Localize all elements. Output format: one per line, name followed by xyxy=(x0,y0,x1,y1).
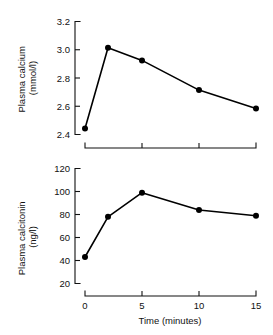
x-tick-label: 15 xyxy=(251,300,262,311)
data-point xyxy=(105,214,111,220)
y-tick-labels-calcium: 3.2 3.0 2.8 2.6 2.4 xyxy=(57,16,70,140)
figure-container: Plasma calcium (mmol/l) 3.2 3.0 2.8 2.6 … xyxy=(0,0,273,335)
data-point xyxy=(196,207,202,213)
y-axis-calcitonin xyxy=(75,169,80,284)
y-axis-title-calcium-line2: (mmol/l) xyxy=(27,61,38,95)
y-axis-title-calcitonin-line2: (ng/l) xyxy=(27,226,38,248)
y-axis-title-calcium: Plasma calcium (mmol/l) xyxy=(16,43,38,112)
y-tick-label: 20 xyxy=(59,278,70,289)
data-point xyxy=(253,105,259,111)
data-point xyxy=(196,87,202,93)
y-axis-title-calcitonin: Plasma calcitonin (ng/l) xyxy=(16,199,38,276)
y-tick-label: 2.4 xyxy=(57,129,70,140)
y-axis-title-calcium-line1: Plasma calcium xyxy=(16,46,27,113)
panel-plasma-calcium: Plasma calcium (mmol/l) 3.2 3.0 2.8 2.6 … xyxy=(16,16,259,148)
data-point xyxy=(82,254,88,260)
series-plasma-calcium xyxy=(82,45,259,132)
x-axis-calcitonin xyxy=(85,291,256,296)
y-tick-label: 2.6 xyxy=(57,101,70,112)
y-tick-label: 2.8 xyxy=(57,73,70,84)
line-plasma-calcium xyxy=(85,48,256,129)
panel-plasma-calcitonin: Plasma calcitonin (ng/l) 120 100 80 60 4… xyxy=(16,163,261,326)
x-axis-title: Time (minutes) xyxy=(139,315,202,326)
y-tick-label: 60 xyxy=(59,232,70,243)
x-tick-label: 0 xyxy=(82,300,87,311)
dual-line-chart: Plasma calcium (mmol/l) 3.2 3.0 2.8 2.6 … xyxy=(0,0,273,335)
y-tick-label: 100 xyxy=(54,186,70,197)
data-point xyxy=(139,57,145,63)
data-point xyxy=(105,45,111,51)
x-tick-label: 10 xyxy=(194,300,205,311)
x-tick-label: 5 xyxy=(139,300,144,311)
y-tick-label: 3.0 xyxy=(57,44,70,55)
data-point xyxy=(139,190,145,196)
data-point xyxy=(253,213,259,219)
y-tick-label: 120 xyxy=(54,163,70,174)
y-tick-labels-calcitonin: 120 100 80 60 40 20 xyxy=(54,163,70,289)
y-axis-calcium xyxy=(75,22,80,135)
x-tick-labels-calcitonin: 0 5 10 15 xyxy=(82,300,261,311)
x-axis-calcium xyxy=(85,143,256,148)
data-point xyxy=(82,126,88,132)
y-tick-label: 3.2 xyxy=(57,16,70,27)
line-plasma-calcitonin xyxy=(85,193,256,257)
y-tick-label: 40 xyxy=(59,255,70,266)
series-plasma-calcitonin xyxy=(82,190,259,260)
y-tick-label: 80 xyxy=(59,209,70,220)
y-axis-title-calcitonin-line1: Plasma calcitonin xyxy=(16,201,27,275)
